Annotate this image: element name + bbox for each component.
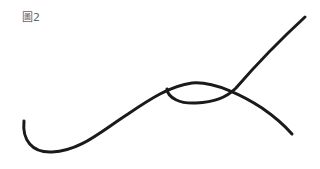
loop-rising-curve [167, 17, 305, 103]
curve-diagram [0, 0, 320, 169]
long-wave-curve [24, 83, 292, 152]
